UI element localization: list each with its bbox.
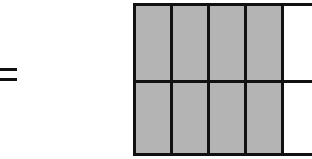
equals-bar-bottom [0,78,17,81]
shaded-cell [247,6,284,80]
equals-sign: = [0,68,17,81]
shaded-cell [173,6,210,80]
equals-bar-top [0,68,17,71]
shaded-cell [210,6,247,80]
shaded-cell [136,6,173,80]
grid-row [136,80,312,154]
grid-row [136,6,312,80]
empty-cell [284,83,312,154]
shaded-cell [247,83,284,154]
shaded-cell [173,83,210,154]
shaded-cell [210,83,247,154]
fraction-grid [133,3,312,156]
empty-cell [284,6,312,80]
shaded-cell [136,83,173,154]
